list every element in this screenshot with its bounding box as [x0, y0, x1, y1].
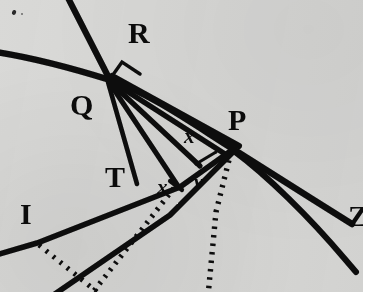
engraved-plate: R Q P T I Z x x v	[0, 0, 363, 292]
label-T: T	[105, 162, 125, 192]
label-I: I	[20, 199, 32, 229]
diagram-svg	[0, 0, 363, 292]
label-P: P	[228, 105, 246, 135]
label-v: v	[194, 172, 203, 193]
label-R: R	[128, 18, 150, 48]
label-Z: Z	[348, 201, 363, 231]
label-Q: Q	[70, 90, 93, 120]
label-x-upper: x	[184, 126, 195, 147]
ray-vertex-fan-2	[111, 81, 225, 154]
label-x-lower: x	[157, 177, 168, 198]
paper-speck-small	[21, 13, 23, 15]
line-bottom-to-P	[52, 152, 233, 292]
curve-QPZ	[0, 52, 352, 224]
figure-root: R Q P T I Z x x v	[0, 0, 370, 300]
